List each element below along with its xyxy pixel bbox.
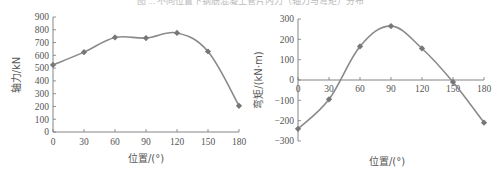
y-tick-label: −100 xyxy=(274,96,294,106)
x-tick-label: 60 xyxy=(355,84,365,94)
y-tick-label: 0 xyxy=(289,75,294,85)
y-axis-title: 弯矩/(kN·m) xyxy=(252,51,264,108)
y-tick-label: −300 xyxy=(274,136,294,146)
x-tick-label: 120 xyxy=(415,84,430,94)
y-tick-label: 100 xyxy=(280,55,295,65)
y-tick-label: 200 xyxy=(280,35,295,45)
bending-moment-chart: −300−200−10001002003000306090120150180位置… xyxy=(0,0,501,177)
x-tick-label: 30 xyxy=(324,84,334,94)
y-tick-label: 300 xyxy=(280,14,295,24)
chart-bending-moment: −300−200−10001002003000306090120150180位置… xyxy=(252,14,491,167)
y-tick-label: −200 xyxy=(274,116,294,126)
x-tick-label: 0 xyxy=(296,84,301,94)
x-axis-title: 位置/(°) xyxy=(369,155,405,167)
data-point-marker xyxy=(388,23,394,29)
x-tick-label: 180 xyxy=(477,84,492,94)
x-tick-label: 90 xyxy=(386,84,396,94)
